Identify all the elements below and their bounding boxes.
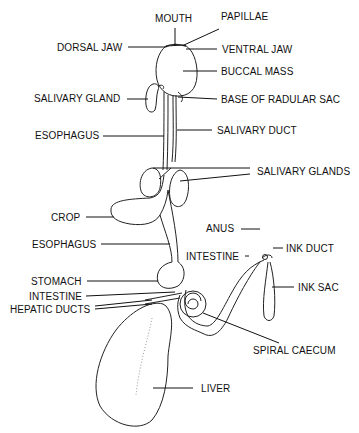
label-dorsal-jaw: DORSAL JAW	[57, 42, 122, 53]
label-esophagus-lower: ESOPHAGUS	[32, 239, 96, 250]
label-salivary-gland: SALIVARY GLAND	[34, 93, 120, 104]
label-stomach: STOMACH	[31, 276, 82, 287]
label-ventral-jaw: VENTRAL JAW	[222, 44, 292, 55]
label-hepatic-ducts: HEPATIC DUCTS	[10, 304, 90, 315]
label-base-of-radular-sac: BASE OF RADULAR SAC	[221, 94, 340, 105]
label-intestine-left: INTESTINE	[29, 291, 82, 302]
label-liver: LIVER	[201, 383, 230, 394]
label-ink-sac: INK SAC	[298, 282, 339, 293]
digestive-system-diagram: MOUTH PAPILLAE DORSAL JAW VENTRAL JAW BU…	[0, 0, 359, 433]
label-salivary-glands: SALIVARY GLANDS	[257, 166, 350, 177]
label-mouth: MOUTH	[155, 13, 192, 24]
label-intestine-right: INTESTINE	[186, 251, 239, 262]
label-papillae: PAPILLAE	[221, 11, 268, 22]
label-crop: CROP	[51, 212, 80, 223]
label-ink-duct: INK DUCT	[286, 243, 334, 254]
label-salivary-duct: SALIVARY DUCT	[217, 125, 297, 136]
label-buccal-mass: BUCCAL MASS	[221, 66, 293, 77]
label-esophagus-upper: ESOPHAGUS	[35, 130, 99, 141]
label-anus: ANUS	[206, 223, 234, 234]
label-spiral-caecum: SPIRAL CAECUM	[253, 345, 336, 356]
